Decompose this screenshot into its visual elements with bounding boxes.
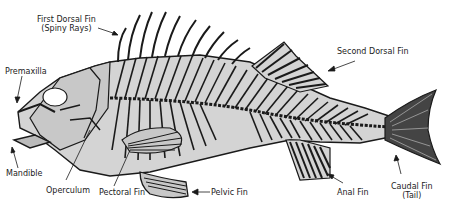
label-second-dorsal-fin: Second Dorsal Fin <box>337 47 408 56</box>
label-text: Operculum <box>46 186 90 195</box>
label-text: Mandible <box>6 169 42 178</box>
label-pectoral-fin: Pectoral Fin <box>99 188 145 197</box>
fish-anatomy-diagram: First Dorsal Fin (Spiny Rays) Second Dor… <box>0 0 454 214</box>
label-subtext: (Spiny Rays) <box>37 24 96 33</box>
label-text: First Dorsal Fin <box>37 15 96 24</box>
label-text: Pelvic Fin <box>211 188 248 197</box>
label-text: Premaxilla <box>5 67 47 76</box>
label-text: Anal Fin <box>337 188 369 197</box>
label-text: Caudal Fin <box>391 182 433 191</box>
label-text: Second Dorsal Fin <box>337 47 408 56</box>
label-subtext: (Tail) <box>391 191 433 200</box>
label-operculum: Operculum <box>46 186 90 195</box>
label-mandible: Mandible <box>6 169 42 178</box>
caudal-fin <box>385 90 440 164</box>
label-text: Pectoral Fin <box>99 188 145 197</box>
label-anal-fin: Anal Fin <box>337 188 369 197</box>
label-premaxilla: Premaxilla <box>5 67 47 76</box>
label-pelvic-fin: Pelvic Fin <box>211 188 248 197</box>
label-caudal-fin: Caudal Fin (Tail) <box>391 182 433 200</box>
label-first-dorsal-fin: First Dorsal Fin (Spiny Rays) <box>37 15 96 33</box>
